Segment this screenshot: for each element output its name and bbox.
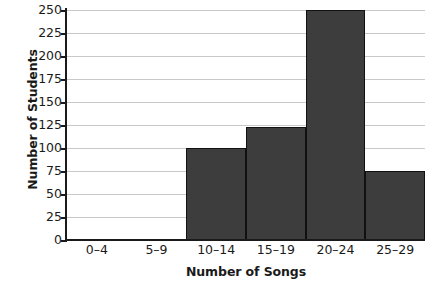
y-axis-tick-label: 150: [26, 96, 62, 109]
y-axis-tick-mark: [61, 33, 66, 35]
plot-area: [67, 10, 425, 240]
gridline: [67, 79, 425, 80]
y-axis-tick-mark: [61, 217, 66, 219]
y-axis-tick-label: 0: [26, 234, 62, 247]
y-axis-tick-mark: [61, 171, 66, 173]
x-axis-title: Number of Songs: [67, 264, 425, 279]
gridline: [67, 56, 425, 57]
y-axis-tick-label: 75: [26, 165, 62, 178]
bar: [246, 127, 306, 240]
y-axis-tick-mark: [61, 148, 66, 150]
x-axis-tick-label: 10–14: [186, 244, 246, 257]
y-axis-tick-mark: [61, 79, 66, 81]
bar: [186, 148, 246, 240]
y-axis-tick-mark: [61, 10, 66, 12]
bar: [365, 171, 425, 240]
gridline: [67, 10, 425, 11]
gridline: [67, 102, 425, 103]
bar: [306, 10, 366, 240]
y-axis-tick-mark: [61, 102, 66, 104]
y-axis-tick-mark: [61, 194, 66, 196]
y-axis-tick-label: 125: [26, 119, 62, 132]
x-axis-tick-label: 0–4: [67, 244, 127, 257]
y-axis-tick-mark: [61, 125, 66, 127]
x-axis-tick-label: 25–29: [365, 244, 425, 257]
y-axis-tick-labels: 0255075100125150175200225250: [22, 0, 62, 286]
y-axis-tick-label: 225: [26, 27, 62, 40]
y-axis-tick-label: 175: [26, 73, 62, 86]
x-axis-tick-label: 5–9: [127, 244, 187, 257]
y-axis-tick-mark: [61, 56, 66, 58]
gridline: [67, 33, 425, 34]
y-axis-tick-label: 50: [26, 188, 62, 201]
histogram-chart: Number of Students 025507510012515017520…: [0, 0, 434, 286]
y-axis-tick-label: 25: [26, 211, 62, 224]
y-axis-tick-label: 100: [26, 142, 62, 155]
x-axis-line: [65, 239, 425, 241]
x-axis-tick-label: 20–24: [306, 244, 366, 257]
x-axis-tick-label: 15–19: [246, 244, 306, 257]
y-axis-tick-label: 250: [26, 4, 62, 17]
gridline: [67, 125, 425, 126]
y-axis-tick-label: 200: [26, 50, 62, 63]
